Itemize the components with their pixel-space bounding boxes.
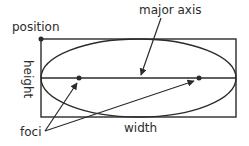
major-axis-label: major axis: [139, 3, 202, 17]
position-dot: [39, 37, 44, 42]
height-label: height: [21, 60, 35, 99]
major-axis-arrow: [141, 18, 161, 75]
ellipse-diagram: position major axis height width foci: [0, 0, 249, 146]
foci-arrow-right: [45, 81, 194, 131]
position-label: position: [12, 20, 60, 34]
focus-left-dot: [77, 76, 82, 81]
foci-label: foci: [20, 125, 42, 139]
width-label: width: [124, 121, 157, 135]
focus-right-dot: [197, 76, 202, 81]
